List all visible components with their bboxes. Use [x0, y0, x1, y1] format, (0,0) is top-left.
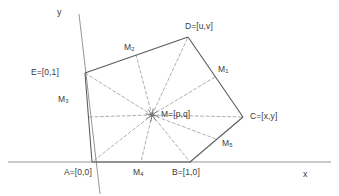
midpoint-label-m5-subscript: 5: [229, 142, 232, 148]
spoke-to-b: [152, 115, 190, 162]
midpoint-label-m5: M5: [222, 139, 232, 149]
vertex-label-a: A=[0,0]: [64, 168, 92, 177]
edge-c-d: [188, 37, 243, 117]
midpoint-label-m2-subscript: 2: [131, 46, 134, 52]
midpoint-label-m4: M4: [133, 168, 143, 178]
spoke-to-e: [85, 73, 152, 115]
edge-d-e: [85, 37, 188, 73]
vertex-label-c: C=[x,y]: [250, 112, 277, 121]
midpoint-label-m1-subscript: 1: [225, 68, 228, 74]
x-axis-label: x: [303, 170, 308, 179]
spoke-to-m3: [88, 115, 152, 117]
midpoint-label-m1: M1: [218, 65, 228, 75]
axes-group: [8, 14, 331, 194]
midpoint-label-m2: M2: [124, 43, 134, 53]
y-axis-label: y: [57, 8, 62, 17]
edge-b-c: [190, 117, 243, 162]
vertex-label-b: B=[1,0]: [172, 168, 200, 177]
pentagon-edges-group: [85, 37, 243, 162]
midpoint-label-m3: M3: [58, 95, 68, 105]
midpoint-label-m4-subscript: 4: [140, 171, 143, 177]
midpoint-label-m3-subscript: 3: [65, 98, 68, 104]
spokes-group: [85, 37, 243, 162]
point-markers-group: [146, 109, 158, 121]
spoke-to-d: [152, 37, 188, 115]
pentagon-figure: [0, 0, 339, 196]
diagram-canvas: A=[0,0]B=[1,0]C=[x,y]D=[u,v]E=[0,1]M=[p,…: [0, 0, 339, 196]
spoke-to-m2: [136, 55, 152, 115]
center-point-marker: [151, 114, 153, 116]
vertex-label-e: E=[0,1]: [31, 68, 59, 77]
vertex-label-d: D=[u,v]: [185, 22, 213, 31]
center-label-m: M=[p,q]: [161, 110, 190, 119]
